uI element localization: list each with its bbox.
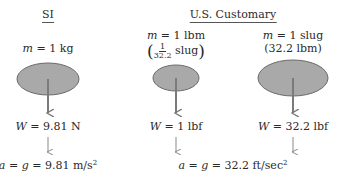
mass-equiv-unit: slug	[175, 44, 198, 57]
weight-value: = 1 lbf	[164, 120, 202, 133]
mass-label-lbm: m = 1 lbm	[147, 30, 205, 42]
accel-label-us: a = g = 32.2 ft/sec2	[178, 160, 287, 172]
equals: =	[189, 159, 198, 172]
weight-var: W	[150, 120, 161, 133]
weight-label-lbm: W = 1 lbf	[150, 121, 203, 133]
accel-value: = 9.81 m/s	[32, 159, 92, 172]
accel-mid: g	[22, 159, 29, 172]
diagram-graphics	[0, 0, 339, 184]
weight-value: = 9.81 N	[30, 120, 80, 133]
mass-var: m	[263, 29, 273, 42]
weight-label-slug: W = 32.2 lbf	[258, 121, 328, 133]
accel-exponent: 2	[283, 159, 287, 167]
weight-label-si: W = 9.81 N	[15, 121, 80, 133]
mass-label-si: m = 1 kg	[23, 43, 74, 55]
accel-lhs: a	[178, 159, 185, 172]
weight-var: W	[15, 120, 26, 133]
fraction-denominator: 32.2	[154, 52, 172, 60]
close-paren: )	[198, 41, 205, 61]
accel-value: = 32.2 ft/sec	[212, 159, 283, 172]
mass-equiv-slug: (32.2 lbm)	[264, 43, 322, 55]
mass-value: = 1 slug	[277, 29, 324, 42]
accel-label-si: a = g = 9.81 m/s2	[0, 160, 97, 172]
fraction: 132.2	[154, 43, 172, 60]
mass-label-slug: m = 1 slug	[263, 30, 323, 42]
accel-mid: g	[201, 159, 208, 172]
mass-var: m	[23, 42, 33, 55]
weight-value: = 32.2 lbf	[273, 120, 328, 133]
accel-lhs: a	[0, 159, 5, 172]
weight-var: W	[258, 120, 269, 133]
accel-exponent: 2	[93, 159, 97, 167]
si-header: SI	[42, 9, 54, 23]
mass-equiv-lbm: (132.2 slug)	[147, 42, 205, 60]
us-customary-header: U.S. Customary	[190, 9, 277, 23]
equals: =	[9, 159, 18, 172]
open-paren: (	[147, 41, 154, 61]
mass-value: = 1 kg	[37, 42, 74, 55]
